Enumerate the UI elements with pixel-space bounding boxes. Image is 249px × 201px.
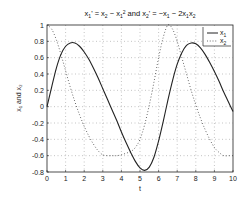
x-tick-label: 2 [82, 175, 86, 182]
x-tick-label: 8 [194, 175, 198, 182]
x-tick-label: 1 [64, 175, 68, 182]
y-tick-label: -0.2 [32, 120, 44, 127]
y-tick-label: 0.6 [34, 54, 44, 61]
x-tick-label: 0 [45, 175, 49, 182]
y-tick-label: 1 [40, 22, 44, 29]
x-tick-label: 3 [101, 175, 105, 182]
x-tick-label: 5 [138, 175, 142, 182]
y-tick-label: 0.4 [34, 71, 44, 78]
chart-figure: 012345678910-0.8-0.6-0.4-0.200.20.40.60.… [0, 0, 249, 201]
y-tick-label: -0.8 [32, 169, 44, 176]
x-tick-label: 6 [157, 175, 161, 182]
y-axis-label: x₁ and x₂ [15, 84, 22, 112]
chart-title: x1' = x2 − x12 and x2' = −x1 − 2x1x2 [85, 9, 196, 19]
y-tick-label: -0.6 [32, 152, 44, 159]
x-axis-label: t [139, 185, 141, 192]
y-tick-label: 0.8 [34, 38, 44, 45]
grid-lines [47, 25, 233, 172]
x-tick-label: 9 [212, 175, 216, 182]
x-tick-label: 10 [229, 175, 237, 182]
x-tick-label: 4 [119, 175, 123, 182]
y-tick-label: -0.4 [32, 136, 44, 143]
x-tick-label: 7 [175, 175, 179, 182]
y-tick-label: 0 [40, 103, 44, 110]
y-tick-label: 0.2 [34, 87, 44, 94]
legend: x1 x2 [203, 27, 231, 46]
